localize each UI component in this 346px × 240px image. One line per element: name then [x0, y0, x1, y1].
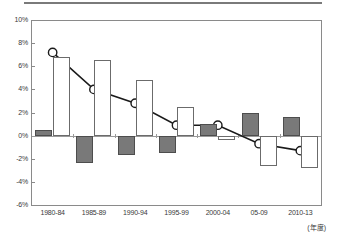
y-axis-tick-mark	[31, 89, 35, 90]
bar-white	[136, 80, 153, 136]
x-axis-tick-mark	[280, 134, 281, 138]
x-axis-category-label: 05-09	[238, 209, 279, 216]
bar-gray	[283, 117, 300, 136]
y-axis-tick-mark	[31, 66, 35, 67]
bar-white	[177, 107, 194, 136]
x-axis-category-label: 2010-13	[280, 209, 321, 216]
y-axis-tick-mark	[31, 113, 35, 114]
y-axis-tick-mark	[31, 205, 35, 206]
y-axis-tick-label: 6%	[2, 62, 28, 69]
x-axis-unit-label: (年度)	[307, 222, 326, 232]
bar-white	[218, 136, 235, 141]
bar-gray	[76, 136, 93, 164]
top-divider-rule	[24, 2, 322, 4]
y-axis-tick-label: 10%	[2, 16, 28, 23]
bar-gray	[35, 130, 52, 136]
y-axis-tick-label: 4%	[2, 85, 28, 92]
x-axis-tick-mark	[115, 134, 116, 138]
bar-white	[53, 57, 70, 136]
x-axis-category-label: 1980-84	[32, 209, 73, 216]
x-axis-category-label: 1990-94	[115, 209, 156, 216]
x-axis-tick-mark	[197, 134, 198, 138]
chart-root: 10%8%6%4%2%0%-2%-4%-6% 1980-841985-89199…	[0, 0, 346, 240]
y-axis-tick-mark	[31, 182, 35, 183]
zero-baseline	[32, 136, 321, 137]
y-axis-tick-label: -2%	[2, 155, 28, 162]
y-axis-tick-mark	[31, 43, 35, 44]
y-axis-tick-label: 8%	[2, 39, 28, 46]
x-axis-tick-mark	[73, 134, 74, 138]
y-axis-tick-mark	[31, 159, 35, 160]
bar-white	[94, 60, 111, 135]
x-axis-tick-mark	[238, 134, 239, 138]
y-axis-tick-label: -4%	[2, 178, 28, 185]
y-axis-tick-label: 0%	[2, 132, 28, 139]
bar-gray	[242, 113, 259, 136]
bar-gray	[118, 136, 135, 156]
x-axis-category-label: 2000-04	[197, 209, 238, 216]
y-axis-tick-mark	[31, 20, 35, 21]
x-axis-category-label: 1985-89	[73, 209, 114, 216]
x-axis-tick-mark	[156, 134, 157, 138]
y-axis-tick-label: 2%	[2, 109, 28, 116]
bar-gray	[159, 136, 176, 153]
bar-white	[301, 136, 318, 168]
bar-gray	[200, 124, 217, 136]
bar-white	[260, 136, 277, 166]
y-axis-tick-label: -6%	[2, 201, 28, 208]
x-axis-category-label: 1995-99	[156, 209, 197, 216]
